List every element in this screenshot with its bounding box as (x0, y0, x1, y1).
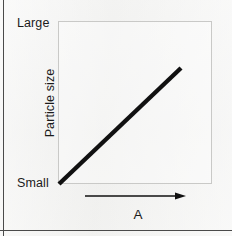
trend-line (59, 68, 181, 184)
x-axis-title: A (133, 207, 142, 222)
vector-layer (0, 0, 232, 236)
x-axis-arrow-head (175, 192, 186, 199)
x-axis-title-row: A (0, 207, 232, 222)
figure-canvas: Large Small Particle size A (0, 0, 232, 236)
